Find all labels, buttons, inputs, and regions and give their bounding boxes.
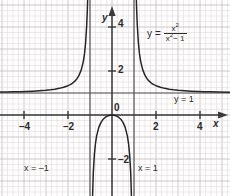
y-tick-label--2: –2 — [118, 155, 129, 165]
x-axis-label: x — [213, 119, 219, 129]
numerator-exponent: 2 — [176, 22, 179, 28]
y-tick-label-2: 2 — [118, 65, 124, 75]
y-axis-label: y — [102, 13, 108, 23]
equation-denominator: x2− 1 — [164, 33, 187, 43]
equation-equals: = — [155, 29, 161, 39]
denominator-tail: − 1 — [173, 34, 184, 43]
equation-label: y = x2 x2− 1 — [147, 24, 187, 43]
y-tick-label-4: 4 — [118, 19, 124, 29]
equation-fraction: x2 x2− 1 — [164, 24, 187, 43]
x-tick-label--2: –2 — [63, 122, 74, 132]
equation-lhs: y — [147, 29, 152, 39]
equation-numerator: x2 — [164, 24, 187, 33]
vertical-asymptote-right-label: x = 1 — [138, 164, 158, 173]
x-tick-label-4: 4 — [197, 122, 203, 132]
x-tick-label-2: 2 — [153, 122, 159, 132]
origin-label: 0 — [114, 103, 120, 113]
vertical-asymptote-left-label: x = –1 — [24, 164, 49, 173]
x-tick-label--4: –4 — [19, 122, 30, 132]
horizontal-asymptote-label: y = 1 — [174, 95, 194, 104]
function-graph-figure: –4 –2 2 4 2 4 –2 0 x y x = –1 x = 1 y = … — [0, 0, 230, 196]
